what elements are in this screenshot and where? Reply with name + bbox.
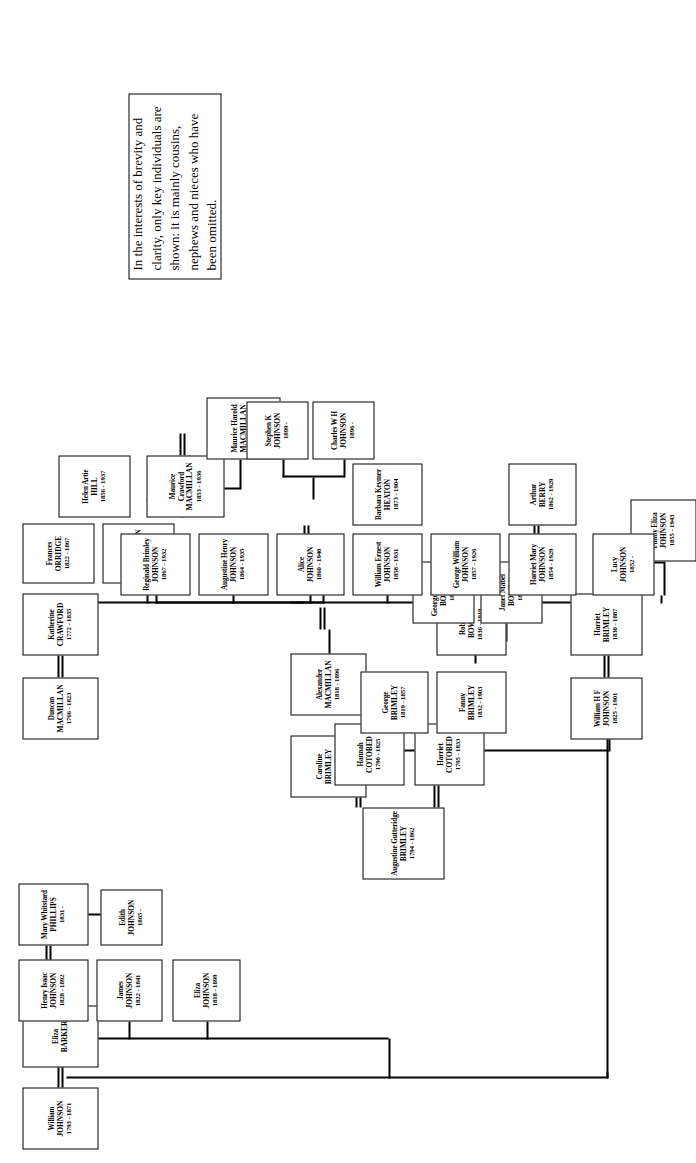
person-node[interactable]: Arthur BERRY 1862 - 1929 <box>508 463 576 525</box>
person-given-name: Katherine <box>47 609 55 639</box>
person-dates: 1852 - <box>627 556 635 573</box>
person-surname: COTOBED <box>365 736 374 773</box>
person-node[interactable]: Edith JOHNSON 1865 - <box>100 889 162 945</box>
connector <box>52 1038 388 1040</box>
person-given-name: Fanny <box>458 692 466 711</box>
person-node[interactable]: James JOHNSON 1822 - 1841 <box>96 959 162 1021</box>
person-node[interactable]: Barbara Keymer HEATON 1873 - 1904 <box>352 463 422 525</box>
person-surname: JOHNSON <box>229 546 238 582</box>
person-dates: 1793 - 1871 <box>64 1102 72 1134</box>
person-node[interactable]: Harriet BRIMLEY 1830 - 1887 <box>570 593 642 655</box>
person-given-name: Eliza <box>193 982 201 997</box>
connector <box>155 602 305 604</box>
person-node[interactable]: Maurice Crawford MACMILLAN 1853 - 1936 <box>146 455 224 517</box>
connector <box>128 1021 130 1039</box>
person-surname: MACMILLAN <box>324 660 333 708</box>
person-given-name: Reginald Brimley <box>142 538 150 591</box>
connector <box>663 561 665 595</box>
person-node[interactable]: Eliza JOHNSON 1818 - 1899 <box>172 959 240 1021</box>
person-surname: BRIMLEY <box>602 606 611 641</box>
marriage-link <box>54 655 66 677</box>
person-dates: 1795 - 1833 <box>453 738 461 770</box>
person-dates: 1899 - <box>281 422 289 439</box>
person-node[interactable]: Frances ORRIDGE 1822 - 1867 <box>22 523 94 583</box>
connector <box>66 1077 388 1079</box>
connector <box>282 459 284 477</box>
person-node[interactable]: George BRIMLEY 1819 - 1857 <box>360 671 428 733</box>
person-given-name: Hannah <box>356 742 364 766</box>
marriage-link <box>176 433 188 455</box>
person-given-name: William Ernest <box>374 541 382 586</box>
person-dates: 1790 - 1825 <box>373 738 381 770</box>
person-surname: HEATON <box>383 478 392 509</box>
person-given-name: Frances <box>45 541 53 565</box>
person-dates: 1818 - 1899 <box>210 974 218 1006</box>
person-surname: JOHNSON <box>127 899 136 935</box>
person-node[interactable]: Alice JOHNSON 1860 - 1940 <box>276 533 344 595</box>
person-dates: 1865 - <box>135 909 143 926</box>
person-given-name: Mary Whitstard <box>40 890 48 939</box>
person-given-name: Maurice Crawford <box>168 458 185 514</box>
person-given-name: Stephen K <box>264 414 272 445</box>
person-node[interactable]: Henry Isaac JOHNSON 1828 - 1892 <box>18 959 88 1021</box>
person-given-name: George William <box>452 540 460 587</box>
person-surname: CRAWFORD <box>56 602 65 646</box>
connector <box>206 1021 208 1039</box>
person-surname: BRIMLEY <box>467 684 476 719</box>
person-given-name: Augustine Gutteridge <box>390 811 398 876</box>
person-surname: ORRIDGE <box>54 535 63 570</box>
person-node[interactable]: Helen Artie HILL 1856 - 1937 <box>58 455 130 517</box>
person-node[interactable]: William H F JOHNSON 1825 - 1901 <box>570 677 642 739</box>
person-surname: JOHNSON <box>49 972 58 1008</box>
person-surname: JOHNSON <box>538 546 547 582</box>
person-node[interactable]: William Ernest JOHNSON 1858 - 1931 <box>352 533 422 595</box>
person-dates: 1858 - 1931 <box>391 548 399 580</box>
person-node[interactable]: William JOHNSON 1793 - 1871 <box>22 1087 98 1149</box>
person-node[interactable]: Augustine Henry JOHNSON 1864 - 1935 <box>198 533 268 595</box>
person-surname: MACMILLAN <box>185 462 194 510</box>
person-node[interactable]: Alexander MACMILLAN 1818 - 1896 <box>290 653 366 715</box>
person-given-name: Harriet <box>436 743 444 765</box>
person-given-name: James <box>116 981 124 1000</box>
person-node[interactable]: George William JOHNSON 1857 - 1926 <box>430 533 500 595</box>
person-given-name: Helen Artie <box>81 469 89 503</box>
person-dates: 1857 - 1926 <box>469 548 477 580</box>
person-node[interactable]: Stephen K JOHNSON 1899 - <box>246 401 308 459</box>
person-dates: 1772 - 1835 <box>64 608 72 640</box>
person-node[interactable]: Reginald Brimley JOHNSON 1867 - 1932 <box>120 533 190 595</box>
person-dates: 1819 - 1857 <box>398 686 406 718</box>
person-surname: BERRY <box>538 481 547 507</box>
person-dates: 1864 - 1935 <box>237 548 245 580</box>
person-node[interactable]: Mary Whitstard PHILLIPS 1831 - <box>18 883 88 945</box>
person-node[interactable]: Katherine CRAWFORD 1772 - 1835 <box>22 593 98 655</box>
person-dates: 1828 - 1892 <box>57 974 65 1006</box>
person-dates: 1860 - 1940 <box>314 548 322 580</box>
person-surname: JOHNSON <box>202 972 211 1008</box>
person-given-name: Arthur <box>529 483 537 504</box>
person-dates: 1873 - 1904 <box>391 478 399 510</box>
person-surname: JOHNSON <box>659 512 668 548</box>
person-node[interactable]: Duncan MACMILLAN 1766 - 1823 <box>22 677 98 739</box>
person-dates: 1831 - <box>57 906 65 923</box>
person-given-name: Alexander <box>315 668 323 699</box>
person-dates: 1830 - 1887 <box>610 608 618 640</box>
person-node[interactable]: Augustine Gutteridge BRIMLEY 1794 - 1862 <box>362 807 444 879</box>
person-node[interactable]: Fanny BRIMLEY 1832 - 1903 <box>436 671 506 733</box>
person-surname: JOHNSON <box>602 690 611 726</box>
person-node[interactable]: Charles W H JOHNSON 1896 - <box>312 401 374 459</box>
person-given-name: Edith <box>118 909 126 926</box>
person-surname: HILL <box>90 477 99 495</box>
person-node[interactable]: Harriet Mary JOHNSON 1854 - 1929 <box>508 533 576 595</box>
person-given-name: Harriet Mary <box>529 544 537 585</box>
person-surname: JOHNSON <box>619 546 628 582</box>
person-node[interactable]: Lucy JOHNSON 1852 - <box>592 533 654 595</box>
connector <box>239 459 241 489</box>
person-given-name: William <box>47 1106 55 1130</box>
person-given-name: Harriet <box>593 613 601 635</box>
person-given-name: William H F <box>593 689 601 726</box>
person-given-name: Barbara Keymer <box>374 468 382 519</box>
person-dates: 1818 - 1896 <box>332 668 340 700</box>
person-dates: 1766 - 1823 <box>64 692 72 724</box>
